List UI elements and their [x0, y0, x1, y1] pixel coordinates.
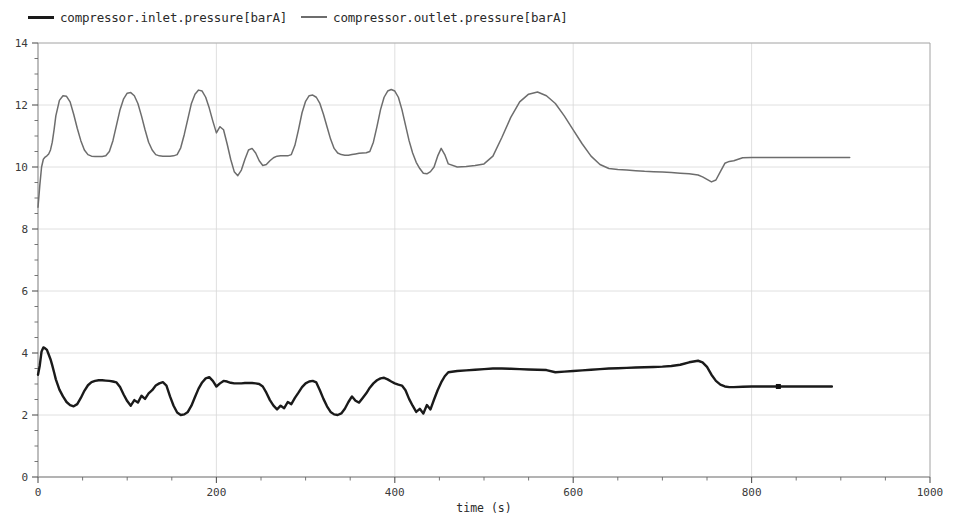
x-tick-label: 600	[563, 486, 583, 499]
plot-canvas: 0246810121402004006008001000 time (s)	[0, 0, 968, 529]
x-tick-label: 1000	[917, 486, 944, 499]
y-tick-label: 8	[21, 223, 28, 236]
y-tick-label: 14	[15, 37, 29, 50]
series-layer	[38, 90, 850, 416]
y-tick-label: 0	[21, 471, 28, 484]
markers-layer	[776, 384, 781, 389]
y-tick-label: 4	[21, 347, 28, 360]
y-tick-label: 10	[15, 161, 28, 174]
y-tick-label: 2	[21, 409, 28, 422]
grid-layer	[38, 43, 930, 477]
x-axis-title: time (s)	[456, 501, 511, 515]
axis-tick-labels: 0246810121402004006008001000	[15, 37, 944, 499]
x-tick-label: 200	[206, 486, 226, 499]
series-line-outlet	[38, 90, 850, 208]
pressure-chart: compressor.inlet.pressure[barA] compress…	[0, 0, 968, 529]
axis-ticks	[32, 43, 930, 483]
y-tick-label: 6	[21, 285, 28, 298]
x-tick-label: 400	[385, 486, 405, 499]
data-point-marker	[776, 384, 781, 389]
y-tick-label: 12	[15, 99, 28, 112]
x-tick-label: 0	[35, 486, 42, 499]
axis-frame	[38, 43, 930, 477]
series-line-inlet	[38, 347, 832, 415]
x-tick-label: 800	[742, 486, 762, 499]
